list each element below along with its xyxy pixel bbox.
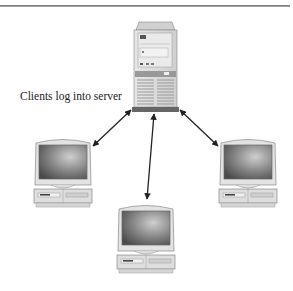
client-computer-right-icon (219, 140, 277, 208)
client-computer-left-icon (34, 140, 92, 208)
arrow-server-right-client (180, 110, 218, 146)
arrow-server-left-client (93, 110, 131, 146)
arrow-server-bottom-client (147, 114, 154, 199)
diagram-graphics (0, 0, 293, 291)
client-server-diagram: Clients log into server (0, 0, 293, 291)
client-computer-bottom-icon (117, 206, 175, 274)
connection-arrows (93, 110, 218, 199)
server-icon (132, 22, 179, 112)
